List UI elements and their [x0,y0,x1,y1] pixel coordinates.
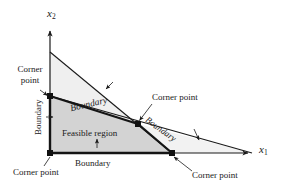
boundary-label-bottom: Boundary [75,158,111,169]
feasible-region-figure: x2 x1 Corner point Corner point Corner p… [0,0,288,192]
corner-point-marker-origin [47,150,53,156]
leader-steep-constraint [106,82,113,89]
y-axis-label: x2 [47,8,56,21]
corner-point-label-top-left-line1: Corner [10,64,50,75]
corner-point-marker-intersection [135,121,141,127]
y-axis-label-subscript: 2 [52,12,56,21]
corner-point-label-bottom-right: Corner point [192,170,238,181]
corner-point-label-top-left: Corner point [10,64,50,85]
corner-point-label-middle: Corner point [152,92,198,103]
x-axis-label: x1 [259,144,268,157]
corner-point-label-bottom-left: Corner point [13,167,59,178]
x-axis-label-subscript: 1 [264,148,268,157]
boundary-label-left: Boundary [33,94,44,140]
leader-shallow-constraint [194,129,199,140]
feasible-region-label: Feasible region [62,128,117,139]
leader-corner-point-bottom-right [174,157,192,171]
corner-point-marker-upper-left [47,93,53,99]
corner-point-marker-lower-right [169,150,175,156]
corner-point-label-top-left-line2: point [10,75,50,86]
leader-corner-point-bottom-left [44,157,50,166]
